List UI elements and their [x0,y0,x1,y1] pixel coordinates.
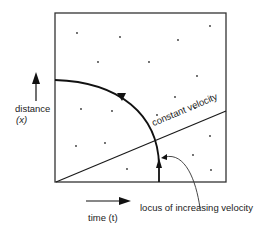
pointer-arrow-icon [161,154,167,160]
y-axis-arrow-icon [32,72,40,84]
locus-label: locus of increasing velocity [140,202,253,213]
x-axis-arrow-icon [119,197,131,205]
diagram-canvas [0,0,271,229]
locus-arrow-up-icon [156,158,162,168]
x-axis-label: time (t) [88,212,118,223]
y-axis-label-line2: (x) [16,114,27,125]
y-axis-label-line1: distance [15,103,50,114]
increasing-velocity-locus [55,80,159,182]
scatter-dots [75,25,212,171]
constant-velocity-line [56,111,226,182]
